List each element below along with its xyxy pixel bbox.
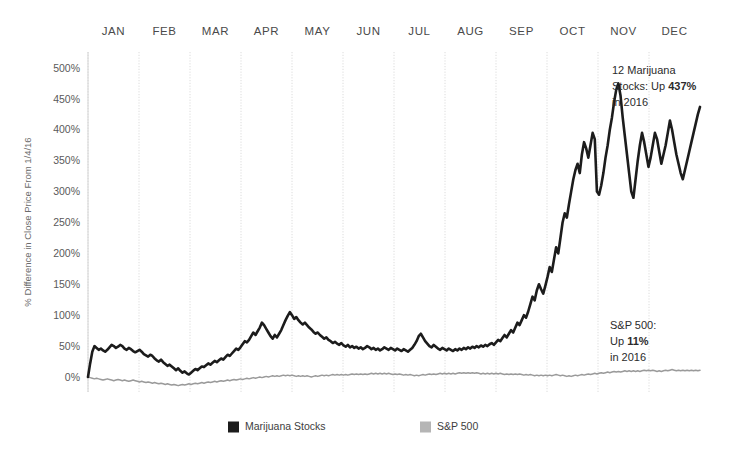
legend-label-marijuana-stocks: Marijuana Stocks xyxy=(245,420,326,432)
month-label-aug: AUG xyxy=(457,25,484,37)
month-axis-labels: JANFEBMARAPRMAYJUNJULAUGSEPOCTNOVDEC xyxy=(102,25,688,37)
y-tick-label-150: 150% xyxy=(53,278,80,290)
month-label-feb: FEB xyxy=(152,25,176,37)
marijuana-annotation-line3: in 2016 xyxy=(612,96,648,108)
legend-swatch-marijuana-stocks xyxy=(228,422,239,433)
y-tick-label-50: 50% xyxy=(59,340,80,352)
y-tick-label-200: 200% xyxy=(53,247,80,259)
y-tick-label-300: 300% xyxy=(53,185,80,197)
marijuana-annotation-line2-prefix: Stocks: Up xyxy=(612,80,668,92)
y-axis-tick-labels: 0%50%100%150%200%250%300%350%400%450%500… xyxy=(53,62,80,383)
sp500-annotation-line2: Up 11% xyxy=(610,335,649,347)
marijuana-annotation-line1: 12 Marijuana xyxy=(612,64,676,76)
month-label-jan: JAN xyxy=(102,25,126,37)
y-tick-label-100: 100% xyxy=(53,309,80,321)
chart-legend: Marijuana StocksS&P 500 xyxy=(228,420,478,432)
plot-gridlines xyxy=(88,52,649,392)
month-label-may: MAY xyxy=(305,25,331,37)
sp500-annotation-line2-prefix: Up xyxy=(610,335,627,347)
legend-label-s-p-500: S&P 500 xyxy=(437,420,478,432)
month-label-jun: JUN xyxy=(356,25,380,37)
month-label-mar: MAR xyxy=(202,25,229,37)
marijuana-annotation-line2: Stocks: Up 437% xyxy=(612,80,697,92)
y-tick-label-500: 500% xyxy=(53,62,80,74)
sp500-annotation-value: 11% xyxy=(627,335,649,347)
month-label-oct: OCT xyxy=(559,25,585,37)
marijuana-annotation-value: 437% xyxy=(668,80,696,92)
y-tick-label-250: 250% xyxy=(53,216,80,228)
sp500-annotation-line3: in 2016 xyxy=(610,351,646,363)
stock-performance-chart: 0%50%100%150%200%250%300%350%400%450%500… xyxy=(0,0,736,451)
month-label-dec: DEC xyxy=(661,25,687,37)
month-label-nov: NOV xyxy=(610,25,637,37)
marijuana-annotation: 12 Marijuana Stocks: Up 437% in 2016 xyxy=(612,64,697,108)
month-label-apr: APR xyxy=(254,25,279,37)
y-tick-label-0: 0% xyxy=(65,371,80,383)
y-axis-title: % Difference in Close Price From 1/4/16 xyxy=(22,137,33,306)
y-tick-label-400: 400% xyxy=(53,123,80,135)
month-label-jul: JUL xyxy=(408,25,430,37)
y-tick-label-350: 350% xyxy=(53,154,80,166)
sp500-annotation-line1: S&P 500: xyxy=(610,319,656,331)
month-label-sep: SEP xyxy=(509,25,534,37)
legend-swatch-s-p-500 xyxy=(420,422,431,433)
y-tick-label-450: 450% xyxy=(53,93,80,105)
